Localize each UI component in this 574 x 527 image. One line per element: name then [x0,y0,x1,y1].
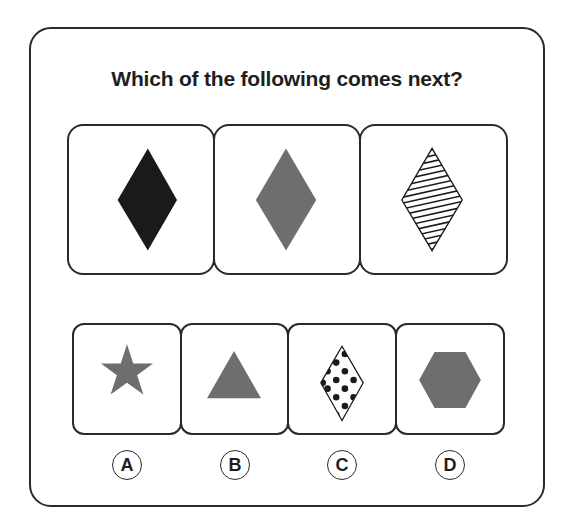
option-a-card[interactable] [72,323,182,435]
question-title: Which of the following comes next? [0,67,574,91]
star-icon [74,325,180,433]
hexagon-icon [397,325,503,433]
diamond-solid-black-icon [69,126,213,273]
option-d-card[interactable] [395,323,505,435]
option-c-card[interactable] [287,323,397,435]
sequence-item-1 [67,124,215,275]
diamond-hatched-icon [361,126,506,273]
option-b-card[interactable] [180,323,289,435]
option-a-label[interactable]: A [112,450,142,480]
sequence-item-2 [213,124,361,275]
triangle-icon [182,325,287,433]
diamond-dotted-icon [289,325,395,433]
diamond-solid-gray-icon [215,126,359,273]
option-c-label[interactable]: C [327,450,357,480]
option-b-label[interactable]: B [220,450,250,480]
option-d-label[interactable]: D [435,450,465,480]
sequence-item-3 [359,124,508,275]
